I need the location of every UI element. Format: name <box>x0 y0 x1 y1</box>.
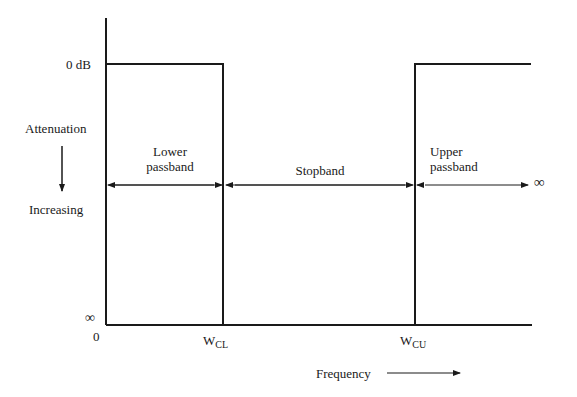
lower-passband-response <box>106 64 223 325</box>
upper-passband-response <box>415 64 531 325</box>
wcu-label: WCU <box>400 333 426 349</box>
zero-db-label: 0 dB <box>66 57 91 72</box>
y-infinity-label: ∞ <box>85 310 95 325</box>
upper-passband-label: Upper passband <box>430 144 500 174</box>
wcu-subscript: CU <box>412 339 426 350</box>
origin-label: 0 <box>93 329 100 344</box>
frequency-label: Frequency <box>316 366 371 381</box>
lower-passband-label: Lower passband <box>125 144 215 174</box>
x-infinity-label: ∞ <box>534 175 545 190</box>
increasing-label: Increasing <box>29 202 83 217</box>
stopband-label: Stopband <box>275 163 365 178</box>
wcl-label: WCL <box>203 333 228 349</box>
wcl-subscript: CL <box>215 339 228 350</box>
attenuation-label: Attenuation <box>25 121 86 136</box>
